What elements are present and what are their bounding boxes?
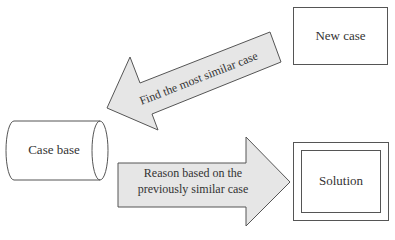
reason-based-label-line1: Reason based on the — [118, 166, 268, 181]
new-case-label: New case — [293, 28, 388, 44]
reason-based-label-line2: previously similar case — [118, 182, 268, 197]
case-base-label: Case base — [8, 142, 100, 158]
solution-label: Solution — [301, 173, 381, 189]
